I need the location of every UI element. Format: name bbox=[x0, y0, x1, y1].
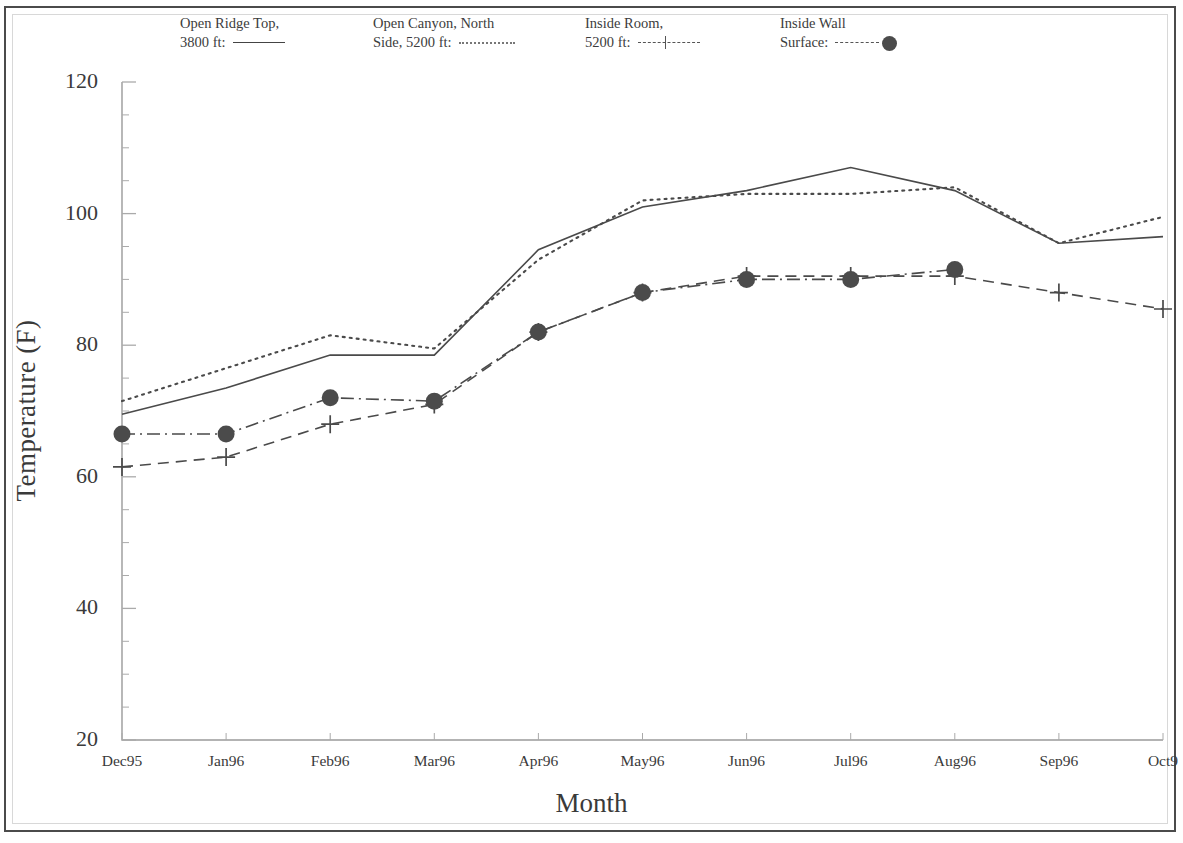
x-tick-label: Dec95 bbox=[102, 752, 142, 770]
y-axis-tick-labels: 12010080604020 bbox=[40, 0, 98, 843]
x-axis-ticks bbox=[122, 733, 1163, 740]
x-tick-label: Jul96 bbox=[834, 752, 868, 770]
axis-lines bbox=[122, 82, 1163, 740]
x-tick-label: Oct9 bbox=[1148, 752, 1178, 770]
y-tick-label: 40 bbox=[40, 594, 98, 620]
series-line-3 bbox=[122, 270, 955, 435]
x-axis-title: Month bbox=[0, 788, 1183, 819]
y-tick-label: 100 bbox=[40, 200, 98, 226]
y-tick-label: 120 bbox=[40, 68, 98, 94]
plot-area: 12010080604020 Dec95Jan96Feb96Mar96Apr96… bbox=[0, 0, 1183, 843]
chart-page: Open Ridge Top, 3800 ft: Open Canyon, No… bbox=[0, 0, 1183, 843]
x-tick-label: May96 bbox=[621, 752, 665, 770]
y-tick-label: 20 bbox=[40, 726, 98, 752]
y-tick-label: 60 bbox=[40, 463, 98, 489]
plot-svg bbox=[0, 0, 1183, 843]
y-axis-title: Temperature (F) bbox=[11, 171, 42, 651]
x-tick-label: Jan96 bbox=[208, 752, 244, 770]
x-tick-label: Mar96 bbox=[414, 752, 455, 770]
y-tick-label: 80 bbox=[40, 331, 98, 357]
series-markers-3 bbox=[114, 261, 964, 443]
x-tick-label: Jun96 bbox=[728, 752, 765, 770]
x-tick-label: Sep96 bbox=[1040, 752, 1079, 770]
x-tick-label: Apr96 bbox=[519, 752, 559, 770]
x-tick-label: Feb96 bbox=[311, 752, 350, 770]
x-tick-label: Aug96 bbox=[934, 752, 976, 770]
